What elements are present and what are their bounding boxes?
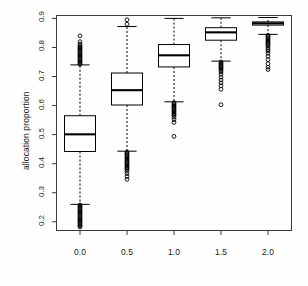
- x-tick-label-1.5: 1.5: [206, 247, 236, 257]
- y-tick-label-0.8: 0.8: [37, 36, 46, 56]
- box-group-0.5: [112, 18, 143, 181]
- box-group-2.0: [253, 18, 284, 72]
- x-tick-label-0.0: 0.0: [65, 247, 95, 257]
- plot-layer: [52, 16, 292, 236]
- y-tick-label-0.9: 0.9: [37, 7, 46, 27]
- outlier-point: [125, 18, 129, 22]
- box-group-0.0: [65, 34, 96, 229]
- x-tick-label-2.0: 2.0: [253, 247, 283, 257]
- box-rect: [112, 73, 143, 105]
- outlier-point: [172, 134, 176, 138]
- y-tick-label-0.2: 0.2: [37, 210, 46, 230]
- box-group-1.0: [159, 18, 190, 138]
- x-tick-label-0.5: 0.5: [112, 247, 142, 257]
- x-tick-label-1.0: 1.0: [159, 247, 189, 257]
- outlier-point: [78, 34, 82, 38]
- y-axis-label: allocation proportion: [21, 60, 31, 170]
- outlier-point: [125, 22, 129, 26]
- boxplot-figure: allocation proportion 0.20.30.40.50.60.7…: [0, 0, 308, 286]
- outlier-point: [219, 103, 223, 107]
- y-tick-label-0.3: 0.3: [37, 181, 46, 201]
- y-tick-label-0.7: 0.7: [37, 65, 46, 85]
- y-tick-label-0.6: 0.6: [37, 94, 46, 114]
- box-rect: [206, 28, 237, 40]
- y-tick-label-0.4: 0.4: [37, 152, 46, 172]
- y-tick-label-0.5: 0.5: [37, 123, 46, 143]
- plot-canvas: [0, 0, 308, 286]
- box-group-1.5: [206, 18, 237, 107]
